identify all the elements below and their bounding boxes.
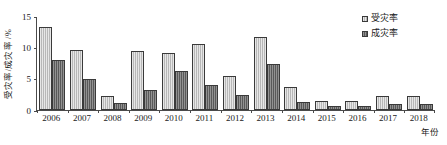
bar-group bbox=[131, 17, 157, 110]
bar bbox=[315, 101, 328, 110]
x-tick-label: 2015 bbox=[318, 113, 336, 124]
y-axis-title-text: 受灾率/成灾率 /% bbox=[1, 29, 13, 99]
bar-group bbox=[70, 17, 96, 110]
bar-group bbox=[407, 17, 433, 110]
bar-group bbox=[101, 17, 127, 110]
y-tick-label: 0 bbox=[27, 107, 32, 116]
x-tick-label: 2014 bbox=[287, 113, 305, 124]
x-tick-label: 2007 bbox=[73, 113, 91, 124]
bar bbox=[83, 79, 96, 110]
bar bbox=[345, 101, 358, 110]
y-axis-title: 受灾率/成灾率 /% bbox=[0, 14, 14, 114]
x-tick-label: 2011 bbox=[196, 113, 214, 124]
legend-label: 成灾率 bbox=[371, 29, 398, 38]
bar bbox=[131, 51, 144, 110]
bar bbox=[358, 106, 371, 110]
bar-group bbox=[284, 17, 310, 110]
bar-group bbox=[192, 17, 218, 110]
x-tick-label: 2012 bbox=[226, 113, 244, 124]
bar bbox=[144, 90, 157, 110]
bar bbox=[376, 96, 389, 110]
bar-group bbox=[254, 17, 280, 110]
y-tick-label: 10 bbox=[22, 44, 31, 53]
bar-group bbox=[223, 17, 249, 110]
bar bbox=[39, 27, 52, 110]
y-tick-label: 15 bbox=[22, 13, 31, 22]
bar bbox=[205, 85, 218, 110]
x-axis-title: 年份 bbox=[421, 127, 439, 137]
bar bbox=[192, 44, 205, 110]
bar bbox=[267, 64, 280, 110]
bar bbox=[70, 50, 83, 110]
y-tick-mark bbox=[34, 17, 38, 18]
bar bbox=[420, 104, 433, 110]
x-tick-label: 2017 bbox=[379, 113, 397, 124]
bar bbox=[101, 96, 114, 110]
legend-item[interactable]: 受灾率 bbox=[362, 14, 398, 23]
bar bbox=[223, 76, 236, 110]
bar bbox=[114, 103, 127, 110]
bar bbox=[389, 104, 402, 110]
bar bbox=[328, 106, 341, 110]
bar bbox=[236, 95, 249, 110]
y-tick-label: 5 bbox=[27, 75, 32, 84]
chart-legend: 受灾率成灾率 bbox=[362, 14, 398, 38]
legend-swatch-icon bbox=[362, 16, 368, 22]
bar bbox=[162, 53, 175, 110]
y-tick-mark bbox=[34, 79, 38, 80]
bar-chart: 受灾率/成灾率 /% 051015 2006200720082009201020… bbox=[0, 0, 447, 145]
x-tick-label: 2018 bbox=[410, 113, 428, 124]
bar bbox=[52, 60, 65, 110]
bar bbox=[175, 71, 188, 110]
bar bbox=[254, 37, 267, 110]
x-tick-label: 2013 bbox=[257, 113, 275, 124]
bar bbox=[407, 96, 420, 110]
y-axis-tick-labels: 051015 bbox=[14, 14, 33, 114]
x-axis-tick-labels: 2006200720082009201020112012201320142015… bbox=[36, 113, 434, 127]
bar-group bbox=[39, 17, 65, 110]
x-tick-label: 2008 bbox=[104, 113, 122, 124]
legend-item[interactable]: 成灾率 bbox=[362, 29, 398, 38]
x-tick-mark bbox=[434, 110, 435, 113]
x-tick-label: 2006 bbox=[42, 113, 60, 124]
bar-group bbox=[315, 17, 341, 110]
x-tick-label: 2009 bbox=[134, 113, 152, 124]
y-tick-mark bbox=[34, 48, 38, 49]
bar bbox=[284, 87, 297, 110]
legend-label: 受灾率 bbox=[371, 14, 398, 23]
bar bbox=[297, 102, 310, 110]
bar-group bbox=[162, 17, 188, 110]
x-tick-label: 2010 bbox=[165, 113, 183, 124]
legend-swatch-icon bbox=[362, 31, 368, 37]
x-tick-label: 2016 bbox=[348, 113, 366, 124]
